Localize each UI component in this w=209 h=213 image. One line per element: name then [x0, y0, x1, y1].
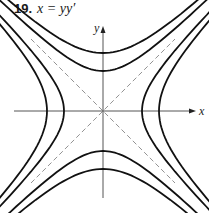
hyperbola-diagram: x y: [0, 0, 209, 213]
coordinate-axes: [14, 26, 196, 198]
hyperbola-left-0: [0, 2, 64, 213]
x-axis-label: x: [198, 104, 205, 118]
x-axis-arrow-icon: [189, 109, 196, 114]
y-axis-arrow-icon: [101, 26, 106, 33]
y-axis-label: y: [93, 21, 100, 35]
